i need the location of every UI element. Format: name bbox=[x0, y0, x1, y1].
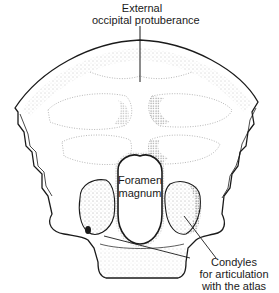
basilar-stipple bbox=[98, 248, 186, 278]
label-line: for articulation bbox=[188, 268, 279, 280]
label-condyles: Condyles for articulation with the atlas bbox=[188, 256, 279, 292]
label-line: occipital protuberance bbox=[92, 14, 192, 26]
left-condyle bbox=[79, 180, 114, 235]
label-foramen-magnum: Foramen magnum bbox=[113, 174, 167, 200]
label-line: Foramen bbox=[113, 174, 167, 187]
label-external-occipital-protuberance: External occipital protuberance bbox=[92, 2, 192, 26]
occipital-bone-drawing bbox=[0, 0, 279, 293]
left-hypoglossal-canal bbox=[85, 226, 91, 234]
anatomy-figure: External occipital protuberance Foramen … bbox=[0, 0, 279, 293]
label-line: External bbox=[92, 2, 192, 14]
label-line: magnum bbox=[113, 187, 167, 200]
label-line: with the atlas bbox=[188, 280, 279, 292]
label-line: Condyles bbox=[188, 256, 279, 268]
